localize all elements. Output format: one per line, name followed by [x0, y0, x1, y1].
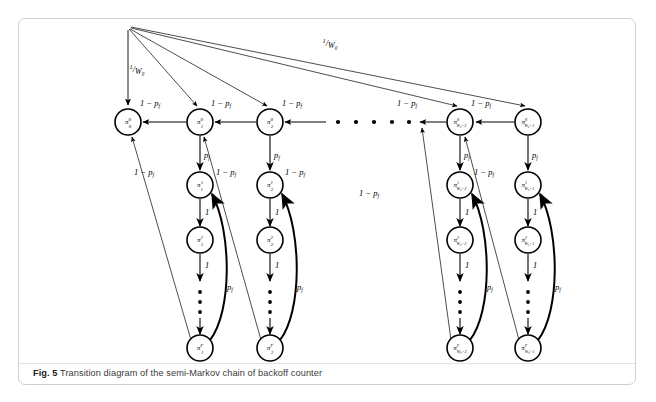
node-circle: [447, 227, 473, 253]
figure-caption: Fig. 5 Transition diagram of the semi-Ma…: [33, 368, 613, 378]
label-one-col1-r2: 1: [205, 260, 209, 270]
caption-separator: [19, 363, 635, 364]
transition-diagram: π00π01π02π0W₀−2π0W₀−1π11π12π1W₀−2π1W₀−1π…: [0, 0, 656, 402]
state-node-pi-W0m1-0: π0W₀−1: [515, 109, 541, 135]
label-pf-return-col4: pf: [486, 282, 494, 293]
node-circle: [515, 227, 541, 253]
node-circle: [515, 109, 541, 135]
label-one-col2-r1: 1: [275, 207, 279, 217]
node-circle: [515, 335, 541, 361]
node-circle: [447, 172, 473, 198]
state-node-pi-2-1: π12: [257, 172, 283, 198]
label-1-minus-pf-diag-1: 1 − pf: [134, 167, 156, 178]
state-node-pi-W0m1-2: π2W₀−1: [515, 227, 541, 253]
label-1-minus-pf-top-5: 1 − pf: [471, 98, 493, 109]
state-node-pi-2-2: π22: [257, 227, 283, 253]
node-circle: [447, 335, 473, 361]
label-one-col4-r2: 1: [465, 260, 469, 270]
state-node-pi-1-1: π11: [187, 172, 213, 198]
state-node-pi-W0m2-0: π0W₀−2: [447, 109, 473, 135]
state-node-pi-2-0: π02: [257, 109, 283, 135]
state-node-pi-W0m1-1: π1W₀−1: [515, 172, 541, 198]
edge-success-c4-to-dots: [422, 128, 451, 340]
state-node-pi-0-0: π00: [115, 109, 141, 135]
state-node-pi-W0m2-1: π1W₀−2: [447, 172, 473, 198]
label-1-minus-pf-top-2: 1 − pf: [211, 98, 233, 109]
label-1-minus-pf-diag-2: 1 − pf: [216, 167, 238, 178]
state-node-pi-W0m1-F: πFW₀−1: [515, 335, 541, 361]
label-one-col5-r2: 1: [533, 260, 537, 270]
state-node-pi-1-F: πF1: [187, 335, 213, 361]
edge-group-freeze-pf: [200, 136, 528, 334]
state-node-pi-2-F: πF2: [257, 335, 283, 361]
label-1-minus-pf-diag-3: 1 − pf: [285, 167, 307, 178]
label-1-minus-pf-diag-5: 1 − pf: [474, 167, 496, 178]
label-pf-col2-r0: pf: [273, 150, 281, 161]
label-one-col5-r1: 1: [533, 207, 537, 217]
figure-caption-text: Transition diagram of the semi-Markov ch…: [60, 368, 322, 378]
horizontal-ellipsis: [336, 120, 411, 124]
label-1-minus-pf-top-3: 1 − pf: [282, 98, 304, 109]
label-pf-col5-r0: pf: [531, 150, 539, 161]
label-pf-return-col2: pf: [296, 282, 304, 293]
label-one-col4-r1: 1: [465, 207, 469, 217]
label-one-col2-r2: 1: [275, 260, 279, 270]
figure-root: π00π01π02π0W₀−2π0W₀−1π11π12π1W₀−2π1W₀−1π…: [0, 0, 656, 402]
edge-group-return-pf: [210, 194, 555, 340]
label-1-minus-pf-diag-4: 1 − pf: [359, 188, 381, 199]
node-layer: π00π01π02π0W₀−2π0W₀−1π11π12π1W₀−2π1W₀−1π…: [115, 109, 541, 361]
label-1-minus-pf-top-4: 1 − pf: [397, 98, 419, 109]
edge-return-pf-c5: [538, 194, 555, 340]
node-circle: [515, 172, 541, 198]
edge-init-to-pi-W0m2-0: [131, 28, 457, 106]
edge-return-pf-c4: [470, 194, 487, 340]
label-one-col1-r1: 1: [205, 207, 209, 217]
state-node-pi-1-0: π01: [187, 109, 213, 135]
state-node-pi-W0m2-2: π2W₀−2: [447, 227, 473, 253]
label-pf-return-col5: pf: [554, 282, 562, 293]
label-1-minus-pf-top-1: 1 − pf: [140, 98, 162, 109]
edge-label-layer: 1/W₀1/W₀1 − pf1 − pf1 − pf1 − pf1 − pf1 …: [129, 37, 562, 293]
edge-return-pf-c2: [280, 194, 297, 340]
state-node-pi-1-2: π21: [187, 227, 213, 253]
label-1-over-w0-right: 1/W₀: [322, 37, 337, 50]
label-pf-return-col1: pf: [226, 282, 234, 293]
label-1-over-w0-left: 1/W₀: [129, 63, 144, 76]
edge-return-pf-c1: [210, 194, 227, 340]
node-circle: [447, 109, 473, 135]
state-node-pi-W0m2-F: πFW₀−2: [447, 335, 473, 361]
figure-number: Fig. 5: [33, 368, 58, 378]
